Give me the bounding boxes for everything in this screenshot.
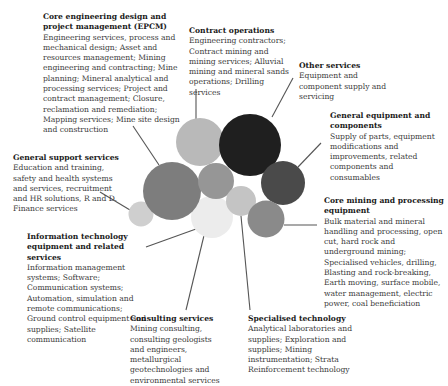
label-consulting: Consulting services Mining consulting, c…: [130, 314, 226, 386]
label-title: Other services: [299, 61, 399, 71]
label-contract-operations: Contract operations Engineering contract…: [189, 26, 289, 98]
bubble-epcm: [143, 162, 201, 220]
label-description: Supply of parts, equipment modifications…: [330, 132, 440, 183]
label-epcm: Core engineering design and project mana…: [43, 12, 183, 136]
label-description: Bulk material and mineral handling and p…: [324, 217, 444, 310]
bubble-core-mining: [248, 201, 285, 238]
label-title: Specialised technology: [248, 314, 363, 324]
label-title: General support services: [13, 153, 125, 163]
label-core-mining: Core mining and processing equipment Bul…: [324, 196, 444, 309]
label-general-support: General support services Education and t…: [13, 153, 125, 215]
label-description: Analytical laboratories and supplies; Ex…: [248, 324, 363, 375]
label-title: Information technology equipment and rel…: [27, 232, 147, 263]
label-description: Information management systems; Software…: [27, 263, 147, 345]
label-description: Engineering services, process and mechan…: [43, 33, 183, 136]
label-title: Consulting services: [130, 314, 226, 324]
label-title: Core mining and processing equipment: [324, 196, 444, 217]
label-title: Contract operations: [189, 26, 289, 36]
connector-it: [146, 229, 196, 247]
connector-specialised-technology: [241, 216, 250, 310]
bubble-general-equipment: [261, 161, 305, 205]
bubble-contract-operations: [176, 118, 224, 166]
label-description: Mining consulting, consulting geologists…: [130, 324, 226, 386]
label-description: Education and training, safety and healt…: [13, 163, 125, 214]
label-other-services: Other services Equipment and component s…: [299, 61, 399, 102]
connector-general-equipment: [298, 143, 321, 167]
label-general-equipment: General equipment and components Supply …: [330, 111, 440, 183]
label-it: Information technology equipment and rel…: [27, 232, 147, 345]
label-specialised-technology: Specialised technology Analytical labora…: [248, 314, 363, 376]
label-title: Core engineering design and project mana…: [43, 12, 183, 33]
label-title: General equipment and components: [330, 111, 440, 132]
label-description: Equipment and component supply and servi…: [299, 71, 399, 102]
label-description: Engineering contractors; Contract mining…: [189, 36, 289, 98]
